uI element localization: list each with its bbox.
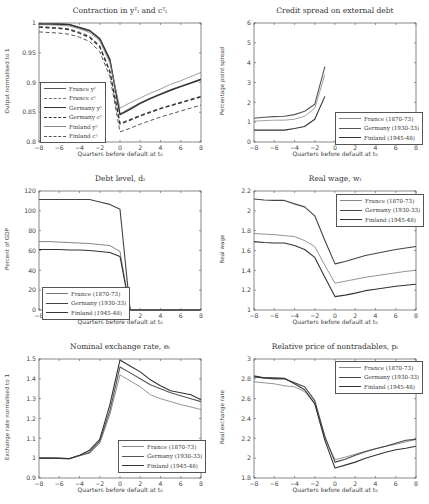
legend-swatch-icon <box>122 456 144 457</box>
legend-item: Finland (1945-48) <box>339 133 419 143</box>
legend-item: Finland (1945-48) <box>340 215 420 225</box>
y-tick-label: 1.6 <box>241 247 251 254</box>
y-tick-label: 2 <box>247 454 251 461</box>
legend-swatch-icon <box>44 88 66 89</box>
y-axis-label: Percentage point spread <box>219 26 225 136</box>
legend-item: Germany (1930-33) <box>340 206 420 216</box>
chart-title: Real wage, wₜ <box>254 174 416 183</box>
y-tick-label: 80 <box>28 227 36 234</box>
legend-item: Germany (1930-33) <box>339 373 419 383</box>
x-axis-label: Quarters before default at t₀ <box>39 150 201 157</box>
x-axis-label: Quarters before default at t₀ <box>254 150 416 157</box>
series-line <box>254 75 325 122</box>
legend-item: Germany (1930-33) <box>122 452 202 462</box>
legend-swatch-icon <box>339 367 361 368</box>
chart-title: Nominal exchange rate, eₜ <box>39 342 201 351</box>
legend-swatch-icon <box>44 126 66 127</box>
y-tick-label: 0 <box>247 138 251 145</box>
y-tick-label: 2.4 <box>241 415 251 422</box>
chart-title: Debt level, dₜ <box>39 174 201 183</box>
legend-swatch-icon <box>339 386 361 387</box>
legend-label: France (1870-73) <box>71 291 120 297</box>
x-axis-label: Quarters before default at t₀ <box>254 318 416 325</box>
legend-swatch-icon <box>46 303 68 304</box>
y-tick-label: 1 <box>247 306 251 313</box>
y-tick-label: 100 <box>24 207 36 214</box>
y-tick-label: 20 <box>28 286 36 293</box>
y-tick-label: 1.4 <box>26 375 36 382</box>
x-axis-label: Quarters before default at t₀ <box>254 486 416 493</box>
legend-swatch-icon <box>339 118 361 119</box>
series-line <box>254 96 325 130</box>
legend-swatch-icon <box>339 137 361 138</box>
y-tick-label: 0 <box>32 306 36 313</box>
plot-area: −8−6−4−2024680.911.11.21.31.41.5 <box>0 336 214 504</box>
legend-item: Germany (1930-33) <box>339 124 419 134</box>
legend: France (1870-73)Germany (1930-33)Finland… <box>335 361 423 394</box>
legend-label: Finland (1945-48) <box>364 384 415 390</box>
y-tick-label: 3 <box>247 79 251 86</box>
y-tick-label: 2.2 <box>241 435 251 442</box>
y-tick-label: 1.2 <box>241 286 251 293</box>
y-tick-label: 1.4 <box>241 267 251 274</box>
legend-item: France (1870-73) <box>46 289 126 299</box>
y-tick-label: 4 <box>247 59 251 66</box>
legend-swatch-icon <box>339 128 361 129</box>
legend-swatch-icon <box>46 312 68 313</box>
panel-contraction: −8−6−4−2024680.80.850.90.951 Contraction… <box>0 0 214 168</box>
y-tick-label: 1 <box>247 118 251 125</box>
panel-real-wage: −8−6−4−20246811.21.41.61.822.2 Real wage… <box>215 168 429 336</box>
legend-swatch-icon <box>340 219 362 220</box>
legend-label: Germany cᵀ <box>69 114 102 120</box>
legend-item: Finland yᵀ <box>44 122 102 132</box>
y-tick-label: 1.3 <box>26 395 36 402</box>
legend-label: Finland (1945-48) <box>147 463 198 469</box>
y-axis-label: Percent of GDP <box>4 194 10 304</box>
legend-item: France (1870-73) <box>339 114 419 124</box>
y-tick-label: 2 <box>247 99 251 106</box>
legend-label: Germany (1930-33) <box>147 453 202 459</box>
y-tick-label: 60 <box>28 247 36 254</box>
panel-credit-spread: −8−6−4−2024680123456 Credit spread on ex… <box>215 0 429 168</box>
legend-item: France (1870-73) <box>339 363 419 373</box>
legend-swatch-icon <box>44 136 66 137</box>
legend-swatch-icon <box>44 107 66 108</box>
x-axis-label: Quarters before default at t₀ <box>39 486 201 493</box>
legend-label: France cᵀ <box>69 95 96 101</box>
legend: France (1870-73)Germany (1930-33)Finland… <box>42 287 130 320</box>
y-tick-label: 5 <box>247 39 251 46</box>
legend-label: Germany (1930-33) <box>71 300 126 306</box>
legend-label: Germany yᵀ <box>69 105 102 111</box>
legend-item: Finland cᵀ <box>44 132 102 142</box>
chart-title: Credit spread on external debt <box>254 6 416 15</box>
y-tick-label: 1 <box>32 454 36 461</box>
legend-label: Germany (1930-33) <box>364 374 419 380</box>
panel-nominal-exchange-rate: −8−6−4−2024680.911.11.21.31.41.5 Nominal… <box>0 336 214 504</box>
legend-item: Finland (1945-48) <box>122 461 202 471</box>
series-line <box>254 67 325 119</box>
y-tick-label: 2.6 <box>241 395 251 402</box>
legend-label: Finland (1945-48) <box>365 217 416 223</box>
legend-swatch-icon <box>340 210 362 211</box>
y-tick-label: 6 <box>247 19 251 26</box>
legend-label: France (1870-73) <box>364 365 413 371</box>
y-tick-label: 1.5 <box>26 355 36 362</box>
y-tick-label: 2.8 <box>241 375 251 382</box>
legend-label: Finland yᵀ <box>69 124 98 130</box>
y-tick-label: 1 <box>32 19 36 26</box>
legend-item: France (1870-73) <box>340 196 420 206</box>
legend-item: Germany (1930-33) <box>46 299 126 309</box>
panel-debt-level: −8−6−4−202468020406080100120 Debt level,… <box>0 168 214 336</box>
legend-item: Finland (1945-48) <box>339 382 419 392</box>
legend: France (1870-73)Germany (1930-33)Finland… <box>336 194 424 227</box>
y-tick-label: 1.2 <box>26 415 36 422</box>
y-axis-label: Output normalised to 1 <box>4 26 10 136</box>
legend-label: Finland (1945-48) <box>364 135 415 141</box>
legend-label: France yᵀ <box>69 86 96 92</box>
legend-label: France (1870-73) <box>365 198 414 204</box>
legend: France (1870-73)Germany (1930-33)Finland… <box>118 440 206 473</box>
y-tick-label: 0.85 <box>22 108 36 115</box>
legend-swatch-icon <box>44 98 66 99</box>
series-line <box>254 234 416 284</box>
y-axis-label: Real exchange rate <box>219 362 225 472</box>
